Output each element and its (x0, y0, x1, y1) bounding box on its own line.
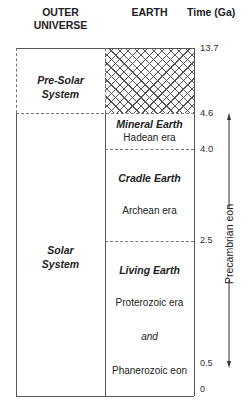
header-outer-universe: OUTER UNIVERSE (16, 6, 105, 32)
header-time: Time (Ga) (187, 6, 235, 18)
header-outer-universe-line1: OUTER (16, 6, 105, 19)
right-border (194, 48, 195, 396)
solar-line1: Solar (16, 243, 105, 257)
pre-solar-divider (105, 48, 106, 113)
pre-solar-line2: System (16, 87, 105, 101)
hadean-era-label: Hadean era (105, 132, 194, 143)
bottom-border (16, 396, 194, 397)
boundary-2.5 (105, 241, 194, 242)
archean-era-label: Archean era (105, 205, 194, 216)
tick-0.5: 0.5 (200, 358, 213, 368)
precambrian-eon-label: Precambrian eon (223, 204, 235, 284)
pre-solar-system-label: Pre-Solar System (16, 73, 105, 101)
and-label: and (105, 331, 194, 342)
proterozoic-era-label: Proterozoic era (105, 297, 194, 308)
column-divider (105, 113, 106, 396)
phanerozoic-eon-label: Phanerozoic eon (105, 365, 194, 376)
boundary-4.0 (105, 149, 194, 150)
living-earth-title: Living Earth (105, 264, 194, 276)
cradle-earth-title: Cradle Earth (105, 172, 194, 184)
header-outer-universe-line2: UNIVERSE (16, 19, 105, 32)
boundary-4.6 (16, 113, 194, 114)
tick-2.5: 2.5 (200, 235, 213, 245)
tick-13.7: 13.7 (200, 42, 219, 53)
tick-4.0: 4.0 (200, 143, 213, 154)
solar-line2: System (16, 257, 105, 271)
pre-earth-hatched-region (105, 48, 194, 113)
mineral-earth-title: Mineral Earth (105, 118, 194, 130)
pre-solar-line1: Pre-Solar (16, 73, 105, 87)
tick-4.6: 4.6 (200, 107, 213, 118)
tick-0: 0 (200, 384, 205, 394)
solar-system-label: Solar System (16, 243, 105, 271)
header-earth: EARTH (105, 6, 194, 19)
